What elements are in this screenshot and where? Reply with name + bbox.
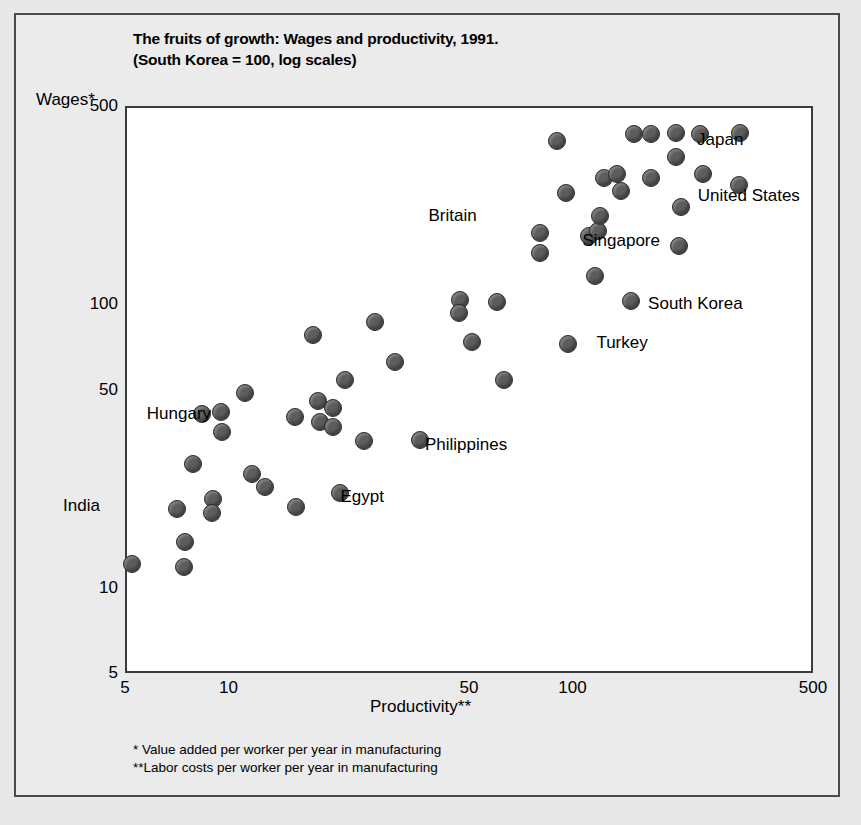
chart-title: The fruits of growth: Wages and producti… (133, 28, 498, 70)
x-tick-50: 50 (429, 678, 509, 698)
footnote-2: **Labor costs per worker per year in man… (133, 759, 441, 777)
y-tick-100: 100 (62, 294, 118, 314)
y-tick-10: 10 (62, 578, 118, 598)
x-axis-title: Productivity** (0, 697, 861, 717)
x-tick-5: 5 (85, 678, 165, 698)
x-tick-100: 100 (533, 678, 613, 698)
y-tick-500: 500 (62, 96, 118, 116)
footnotes: * Value added per worker per year in man… (133, 741, 441, 777)
x-tick-500: 500 (773, 678, 853, 698)
chart-figure: The fruits of growth: Wages and producti… (0, 0, 861, 825)
y-tick-50: 50 (62, 380, 118, 400)
x-axis-title-text: Productivity** (370, 697, 471, 716)
chart-title-line-2: (South Korea = 100, log scales) (133, 49, 498, 70)
footnote-1: * Value added per worker per year in man… (133, 741, 441, 759)
x-tick-10: 10 (189, 678, 269, 698)
chart-title-line-1: The fruits of growth: Wages and producti… (133, 28, 498, 49)
plot-area (125, 106, 813, 673)
